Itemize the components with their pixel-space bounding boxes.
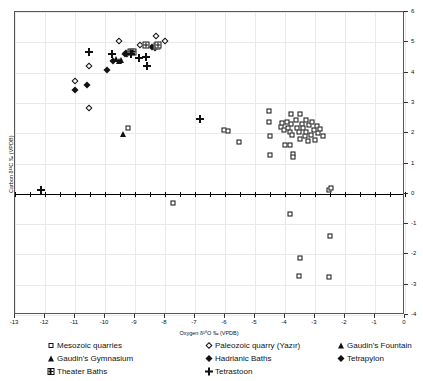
x-tick-label: -2	[341, 319, 346, 325]
y-tick-mark	[404, 72, 408, 73]
zero-axis-tick	[195, 192, 196, 197]
gridline-horizontal	[15, 224, 403, 225]
legend-item[interactable]: Paleozoic quarry (Yazır)	[204, 339, 300, 352]
plus-icon	[204, 367, 213, 376]
plot-area	[14, 11, 404, 314]
zero-axis-tick	[225, 192, 226, 197]
legend-item[interactable]: Mesozoic quarries	[46, 339, 133, 352]
y-tick-label: 6	[411, 8, 414, 14]
filled-diamond-icon	[336, 354, 345, 363]
x-tick-mark	[374, 314, 375, 318]
gridline-vertical	[75, 12, 76, 313]
y-axis-title: Carbon δ¹³C ‰ (VPDB)	[8, 135, 14, 192]
gridline-vertical	[45, 12, 46, 313]
gridline-horizontal	[15, 103, 403, 104]
open-diamond-icon	[204, 341, 213, 350]
x-tick-mark	[314, 314, 315, 318]
y-tick-mark	[404, 284, 408, 285]
gridline-vertical	[375, 12, 376, 313]
legend-item[interactable]: Tetrapylon	[336, 352, 412, 365]
y-tick-label: -2	[411, 250, 416, 256]
x-tick-mark	[254, 314, 255, 318]
zero-axis-tick	[90, 192, 91, 197]
legend-label: Gaudin's Fountain	[347, 341, 412, 350]
zero-axis-tick	[15, 192, 16, 197]
y-tick-mark	[404, 223, 408, 224]
zero-axis-tick	[105, 192, 106, 197]
filled-triangle-icon	[336, 341, 345, 350]
y-tick-mark	[404, 41, 408, 42]
legend-item[interactable]: Gaudin's Fountain	[336, 339, 412, 352]
legend-column: Mesozoic quarriesGaudin's GymnasiumTheat…	[46, 339, 133, 378]
zero-axis-tick	[360, 192, 361, 197]
filled-triangle-icon	[46, 354, 55, 363]
y-tick-label: 1	[411, 160, 414, 166]
y-tick-label: 0	[411, 190, 414, 196]
zero-axis-tick	[135, 192, 136, 197]
gridline-horizontal	[15, 133, 403, 134]
x-tick-label: -4	[281, 319, 286, 325]
y-tick-label: 2	[411, 129, 414, 135]
legend-item[interactable]: Tetrastoon	[204, 365, 300, 378]
legend-label: Paleozoic quarry (Yazır)	[215, 341, 300, 350]
x-tick-mark	[164, 314, 165, 318]
zero-axis-tick	[345, 192, 346, 197]
zero-axis-tick	[30, 192, 31, 197]
legend-column: Paleozoic quarry (Yazır)Hadrianic BathsT…	[204, 339, 300, 378]
y-tick-mark	[404, 253, 408, 254]
zero-axis-tick	[240, 192, 241, 197]
y-tick-label: -1	[411, 220, 416, 226]
open-square-icon	[46, 341, 55, 350]
zero-axis-tick	[120, 192, 121, 197]
filled-diamond-icon	[204, 354, 213, 363]
zero-axis-tick	[315, 192, 316, 197]
gridline-vertical	[345, 12, 346, 313]
legend-item[interactable]: Gaudin's Gymnasium	[46, 352, 133, 365]
chart-legend: Mesozoic quarriesGaudin's GymnasiumTheat…	[46, 339, 406, 379]
gridline-vertical	[315, 12, 316, 313]
x-tick-mark	[224, 314, 225, 318]
legend-item[interactable]: Hadrianic Baths	[204, 352, 300, 365]
legend-item[interactable]: Theater Baths	[46, 365, 133, 378]
x-tick-label: -10	[100, 319, 109, 325]
zero-axis-tick	[270, 192, 271, 197]
gridline-vertical	[105, 12, 106, 313]
zero-axis-tick	[150, 192, 151, 197]
gridline-vertical	[165, 12, 166, 313]
zero-axis-tick	[165, 192, 166, 197]
y-tick-mark	[404, 11, 408, 12]
y-tick-label: 3	[411, 99, 414, 105]
x-tick-label: -7	[191, 319, 196, 325]
x-tick-mark	[284, 314, 285, 318]
legend-column: Gaudin's FountainTetrapylon	[336, 339, 412, 365]
gridline-horizontal	[15, 12, 403, 13]
x-tick-mark	[14, 314, 15, 318]
gridline-horizontal	[15, 164, 403, 165]
y-tick-label: -4	[411, 311, 416, 317]
zero-axis-tick	[255, 192, 256, 197]
x-tick-label: -6	[221, 319, 226, 325]
x-tick-label: -13	[10, 319, 19, 325]
zero-axis-tick	[375, 192, 376, 197]
legend-label: Tetrapylon	[347, 354, 384, 363]
x-axis-title: Oxygen δ¹⁸O ‰ (VPDB)	[179, 330, 238, 336]
zero-axis-tick	[300, 192, 301, 197]
y-tick-mark	[404, 163, 408, 164]
x-tick-mark	[44, 314, 45, 318]
zero-axis-tick	[210, 192, 211, 197]
zero-axis-tick	[390, 192, 391, 197]
gridline-vertical	[195, 12, 196, 313]
legend-label: Tetrastoon	[215, 367, 252, 376]
y-tick-mark	[404, 193, 408, 194]
x-tick-label: -3	[311, 319, 316, 325]
zero-axis-line	[15, 194, 403, 195]
zero-axis-tick	[285, 192, 286, 197]
x-tick-label: -11	[70, 319, 78, 325]
x-tick-label: -1	[371, 319, 376, 325]
gridline-vertical	[285, 12, 286, 313]
gridline-horizontal	[15, 285, 403, 286]
zero-axis-tick	[180, 192, 181, 197]
y-tick-mark	[404, 102, 408, 103]
x-tick-mark	[194, 314, 195, 318]
legend-label: Theater Baths	[57, 367, 107, 376]
